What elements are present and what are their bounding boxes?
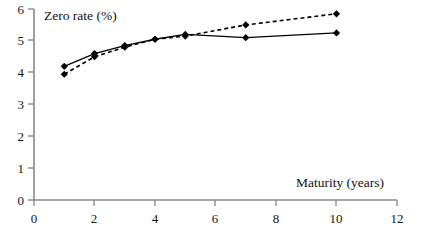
x-axis-ticks <box>34 200 397 206</box>
y-tick-label-2: 2 <box>6 130 24 143</box>
data-point-marker <box>333 29 340 36</box>
y-tick-label-1: 1 <box>6 162 24 175</box>
x-tick-label-0: 0 <box>24 212 44 225</box>
y-axis-ticks <box>28 9 34 200</box>
x-tick-label-12: 12 <box>387 212 407 225</box>
data-point-marker <box>242 21 249 28</box>
x-axis-title: Maturity (years) <box>296 175 384 190</box>
data-point-marker <box>61 71 68 78</box>
series-solid-series <box>61 29 340 70</box>
data-point-marker <box>242 34 249 41</box>
y-tick-label-3: 3 <box>6 98 24 111</box>
y-tick-label-4: 4 <box>6 66 24 79</box>
y-tick-label-6: 6 <box>6 3 24 16</box>
chart-plot-area <box>0 0 422 246</box>
data-point-marker <box>151 36 158 43</box>
series-line <box>64 33 336 66</box>
zero-rate-chart: 6 5 4 3 2 1 0 0 2 4 6 8 10 12 Zero rate … <box>0 0 422 246</box>
x-tick-label-6: 6 <box>205 212 225 225</box>
x-tick-label-8: 8 <box>266 212 286 225</box>
y-axis-title: Zero rate (%) <box>44 8 117 23</box>
y-tick-label-0: 0 <box>6 194 24 207</box>
x-tick-label-4: 4 <box>145 212 165 225</box>
y-tick-label-5: 5 <box>6 34 24 47</box>
data-point-marker <box>333 10 340 17</box>
data-point-marker <box>61 63 68 70</box>
x-tick-label-10: 10 <box>326 212 346 225</box>
x-tick-label-2: 2 <box>84 212 104 225</box>
